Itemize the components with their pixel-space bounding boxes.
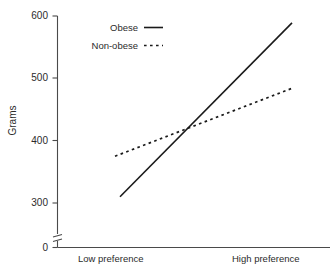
legend-label-non-obese: Non-obese	[40, 41, 138, 51]
y-tick-label-500: 500	[8, 73, 48, 83]
axis-break-mark-upper	[53, 235, 62, 238]
x-category-label-low: Low preference	[78, 254, 143, 264]
y-axis-label: Grams	[7, 91, 18, 151]
y-tick-label-300: 300	[8, 198, 48, 208]
legend-label-obese: Obese	[40, 23, 138, 33]
series-line-obese	[120, 23, 292, 197]
chart-figure: 600 500 400 300 0 Grams Low preference H…	[0, 0, 336, 270]
y-tick-label-0: 0	[8, 243, 48, 253]
y-tick-label-600: 600	[8, 11, 48, 21]
series-line-non-obese	[115, 88, 292, 156]
x-category-label-high: High preference	[232, 254, 300, 264]
